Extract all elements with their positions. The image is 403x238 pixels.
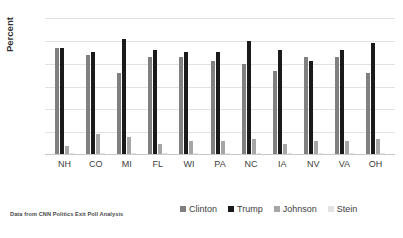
bar-group [49, 18, 80, 155]
x-axis-tick-label: MI [111, 159, 142, 169]
bar [211, 61, 215, 155]
x-axis-line [45, 154, 395, 155]
legend-swatch-icon [228, 206, 234, 212]
legend-item[interactable]: Trump [228, 204, 263, 214]
bar-group [329, 18, 360, 155]
x-axis-tick-label: OH [360, 159, 391, 169]
legend-item[interactable]: Stein [328, 204, 358, 214]
bar [184, 52, 188, 155]
chart-legend: ClintonTrumpJohnsonStein [180, 204, 357, 214]
source-caption: Data from CNN Politics Exit Poll Analysi… [10, 211, 123, 217]
x-axis-tick-label: IA [267, 159, 298, 169]
x-axis-tick-label: NC [236, 159, 267, 169]
x-axis-tick-labels: NHCOMIFLWIPANCIANVVAOH [45, 159, 395, 169]
x-axis-tick-label: VA [329, 159, 360, 169]
bar [335, 57, 339, 155]
bar [91, 52, 95, 155]
bar [60, 48, 64, 155]
bar [314, 141, 318, 155]
bar [216, 52, 220, 155]
bar [247, 41, 251, 155]
legend-swatch-icon [328, 206, 334, 212]
bar-group [298, 18, 329, 155]
x-axis-tick-label: FL [142, 159, 173, 169]
legend-item[interactable]: Clinton [180, 204, 217, 214]
legend-swatch-icon [274, 206, 280, 212]
bar-group [236, 18, 267, 155]
bar-chart: Percent 0102030405060 NHCOMIFLWIPANCIANV… [0, 0, 403, 238]
bar [179, 57, 183, 155]
bar-group [142, 18, 173, 155]
legend-swatch-icon [180, 206, 186, 212]
bar [117, 73, 121, 155]
bar-group [80, 18, 111, 155]
x-axis-tick-label: PA [204, 159, 235, 169]
bar [252, 139, 256, 155]
bar [273, 71, 277, 155]
x-axis-tick-label: NH [49, 159, 80, 169]
bar-groups [45, 18, 395, 155]
bar [340, 50, 344, 155]
bar [221, 141, 225, 155]
bar [153, 50, 157, 155]
bar [86, 55, 90, 155]
bar-group [111, 18, 142, 155]
bar [309, 61, 313, 155]
bar [148, 57, 152, 155]
bar-group [173, 18, 204, 155]
plot-area: 0102030405060 [45, 18, 395, 155]
bar [278, 50, 282, 155]
bar [345, 141, 349, 155]
bar [304, 57, 308, 155]
bar [376, 139, 380, 155]
legend-item[interactable]: Johnson [274, 204, 317, 214]
bar [55, 48, 59, 155]
bar [96, 134, 100, 155]
bar [371, 43, 375, 155]
bar [122, 39, 126, 155]
x-axis-tick-label: WI [173, 159, 204, 169]
bar [127, 137, 131, 155]
bar [366, 73, 370, 155]
legend-label: Clinton [189, 204, 217, 214]
x-axis-tick-label: CO [80, 159, 111, 169]
bar-group [360, 18, 391, 155]
bar-group [267, 18, 298, 155]
bar [242, 64, 246, 155]
bar [189, 141, 193, 155]
legend-label: Trump [237, 204, 263, 214]
legend-label: Johnson [283, 204, 317, 214]
y-axis-title: Percent [4, 17, 15, 52]
legend-label: Stein [337, 204, 358, 214]
x-axis-tick-label: NV [298, 159, 329, 169]
bar-group [204, 18, 235, 155]
